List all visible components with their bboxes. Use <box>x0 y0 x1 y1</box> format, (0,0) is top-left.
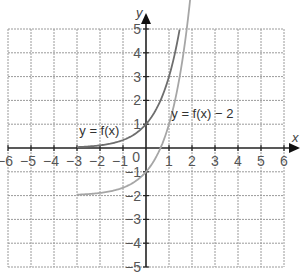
x-tick-label: 3 <box>211 153 219 169</box>
x-tick-label: −5 <box>20 153 36 169</box>
y-tick-label: −5 <box>125 259 141 274</box>
y-tick-label: 1 <box>133 116 141 132</box>
y-tick-label: 4 <box>133 45 141 61</box>
x-tick-label: 6 <box>280 153 288 169</box>
y-tick-label: −1 <box>125 164 141 180</box>
y-tick-label: −3 <box>125 211 141 227</box>
origin-label: 0 <box>132 149 140 165</box>
x-tick-label: 2 <box>188 153 196 169</box>
x-tick-label: −2 <box>89 153 105 169</box>
y-tick-label: 3 <box>133 69 141 85</box>
x-tick-label: 1 <box>165 153 173 169</box>
y-tick-label: 2 <box>133 92 141 108</box>
x-tick-label: 4 <box>234 153 242 169</box>
x-tick-label: 5 <box>257 153 265 169</box>
y-tick-label: −4 <box>125 235 141 251</box>
graph: −6−5−4−3−2−112345654321−1−2−3−4−50xyy = … <box>0 0 301 274</box>
y-tick-label: −2 <box>125 188 141 204</box>
labels: −6−5−4−3−2−112345654321−1−2−3−4−50xyy = … <box>0 5 299 274</box>
x-tick-label: −3 <box>66 153 82 169</box>
axes <box>8 13 300 267</box>
x-tick-label: −4 <box>43 153 59 169</box>
x-tick-label: −6 <box>0 153 13 169</box>
y-tick-label: 5 <box>133 21 141 37</box>
y-axis-label: y <box>135 5 144 20</box>
curve-label-f: y = f(x) <box>79 123 119 138</box>
curve-label-f-shifted: y = f(x) − 2 <box>171 106 233 121</box>
x-axis-label: x <box>291 130 299 145</box>
y-axis-arrow-icon <box>141 13 151 24</box>
